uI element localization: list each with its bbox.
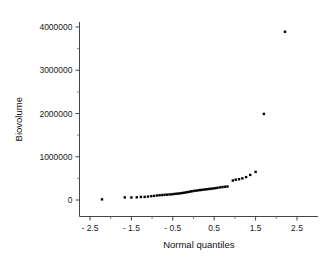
y-tick-label: 0 [68,195,73,205]
x-tick-label: - 2.5 [81,223,98,233]
y-tick-label: 4000000 [39,22,72,32]
x-tick-label: 1.5 [250,223,262,233]
data-point [241,177,243,179]
data-point [172,193,174,195]
data-point [143,196,145,198]
data-point [170,193,172,195]
data-point [249,174,251,176]
data-point [175,193,177,195]
chart-canvas: 01000000200000030000004000000 - 2.5- 1.5… [0,0,332,266]
x-tick-label: 0.5 [208,223,220,233]
data-point [224,186,226,188]
data-point [101,198,103,200]
data-point [263,113,265,115]
y-tick-label: 3000000 [39,65,72,75]
data-point [200,189,202,191]
y-axis: 01000000200000030000004000000 [39,22,79,217]
data-point [150,195,152,197]
data-point [187,191,189,193]
data-point [196,189,198,191]
data-point [235,178,237,180]
data-point [183,192,185,194]
data-point [212,187,214,189]
data-point [206,188,208,190]
y-tick-label: 1000000 [39,152,72,162]
data-point [254,171,256,173]
data-point [214,187,216,189]
data-point [221,186,223,188]
data-point [190,190,192,192]
data-point [161,194,163,196]
data-point [179,192,181,194]
x-tick-label: - 1.5 [123,223,140,233]
scatter-points [101,31,286,201]
data-point [130,196,132,198]
x-axis-title: Normal quantiles [163,239,235,250]
data-point [177,192,179,194]
data-point [284,31,286,33]
data-point [136,196,138,198]
data-point [208,188,210,190]
data-point [210,187,212,189]
data-point [140,196,142,198]
data-point [192,190,194,192]
qq-plot-figure: 01000000200000030000004000000 - 2.5- 1.5… [0,0,332,266]
data-point [245,176,247,178]
x-tick-label: - 0.5 [164,223,181,233]
data-point [181,192,183,194]
data-point [219,186,221,188]
data-point [204,188,206,190]
data-point [166,193,168,195]
y-axis-title: Biovolume [13,97,24,141]
data-point [158,194,160,196]
data-point [163,194,165,196]
data-point [168,193,170,195]
data-point [156,194,158,196]
data-point [153,195,155,197]
x-tick-label: 2.5 [291,223,303,233]
y-tick-label: 2000000 [39,109,72,119]
data-point [124,196,126,198]
data-point [202,189,204,191]
data-point [232,179,234,181]
data-point [226,185,228,187]
data-point [216,187,218,189]
data-point [238,178,240,180]
data-point [147,195,149,197]
x-axis: - 2.5- 1.5- 0.50.51.52.5 [80,217,319,233]
